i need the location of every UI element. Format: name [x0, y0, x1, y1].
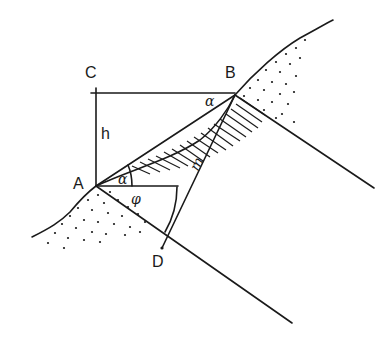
soil-stipple-upper: [243, 39, 306, 123]
angle-arc-phi-a: [165, 187, 177, 232]
line-ad-extended: [96, 186, 292, 323]
label-phi-a: φ: [131, 191, 141, 207]
label-a: A: [73, 175, 84, 192]
label-c: C: [85, 64, 97, 81]
label-h: h: [101, 125, 110, 142]
label-m: m: [186, 154, 206, 173]
label-alpha-b: α: [205, 93, 215, 109]
angle-arc-alpha-a: [128, 165, 132, 186]
label-d: D: [152, 253, 164, 270]
point-d-marker: [160, 246, 163, 249]
label-b: B: [225, 64, 236, 81]
slope-diagram: C B A D h α α φ m: [0, 0, 391, 337]
label-alpha-a: α: [118, 171, 128, 187]
line-b-extended: [235, 95, 374, 188]
